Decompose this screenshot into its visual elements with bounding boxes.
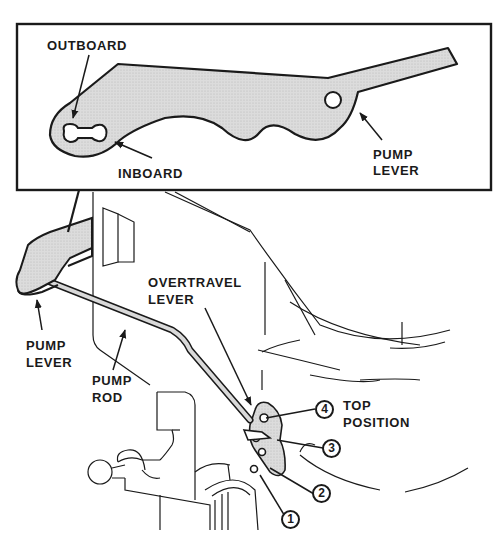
- label-top-position-2: POSITION: [343, 415, 410, 430]
- label-outboard: OUTBOARD: [47, 38, 127, 53]
- label-pump-rod-2: ROD: [92, 390, 123, 405]
- position-4-marker: 4: [315, 400, 334, 419]
- position-1-marker: 1: [281, 510, 300, 529]
- label-pump-lever-1: PUMP: [26, 338, 66, 353]
- label-inset-pump-lever-1: PUMP: [373, 147, 413, 162]
- label-overtravel-1: OVERTRAVEL: [148, 275, 242, 290]
- position-3-marker: 3: [322, 439, 341, 458]
- label-top-position-1: TOP: [343, 398, 371, 413]
- label-overtravel-2: LEVER: [148, 292, 194, 307]
- label-inset-pump-lever-2: LEVER: [373, 163, 419, 178]
- carburetor-body-lines: [88, 192, 468, 530]
- label-pump-rod-1: PUMP: [92, 373, 132, 388]
- label-pump-lever-2: LEVER: [26, 355, 72, 370]
- pump-rod: [40, 278, 250, 420]
- pump-linkage-diagram: [0, 0, 496, 550]
- overtravel-lever: [244, 402, 285, 475]
- label-inboard: INBOARD: [118, 166, 183, 181]
- position-2-marker: 2: [312, 484, 331, 503]
